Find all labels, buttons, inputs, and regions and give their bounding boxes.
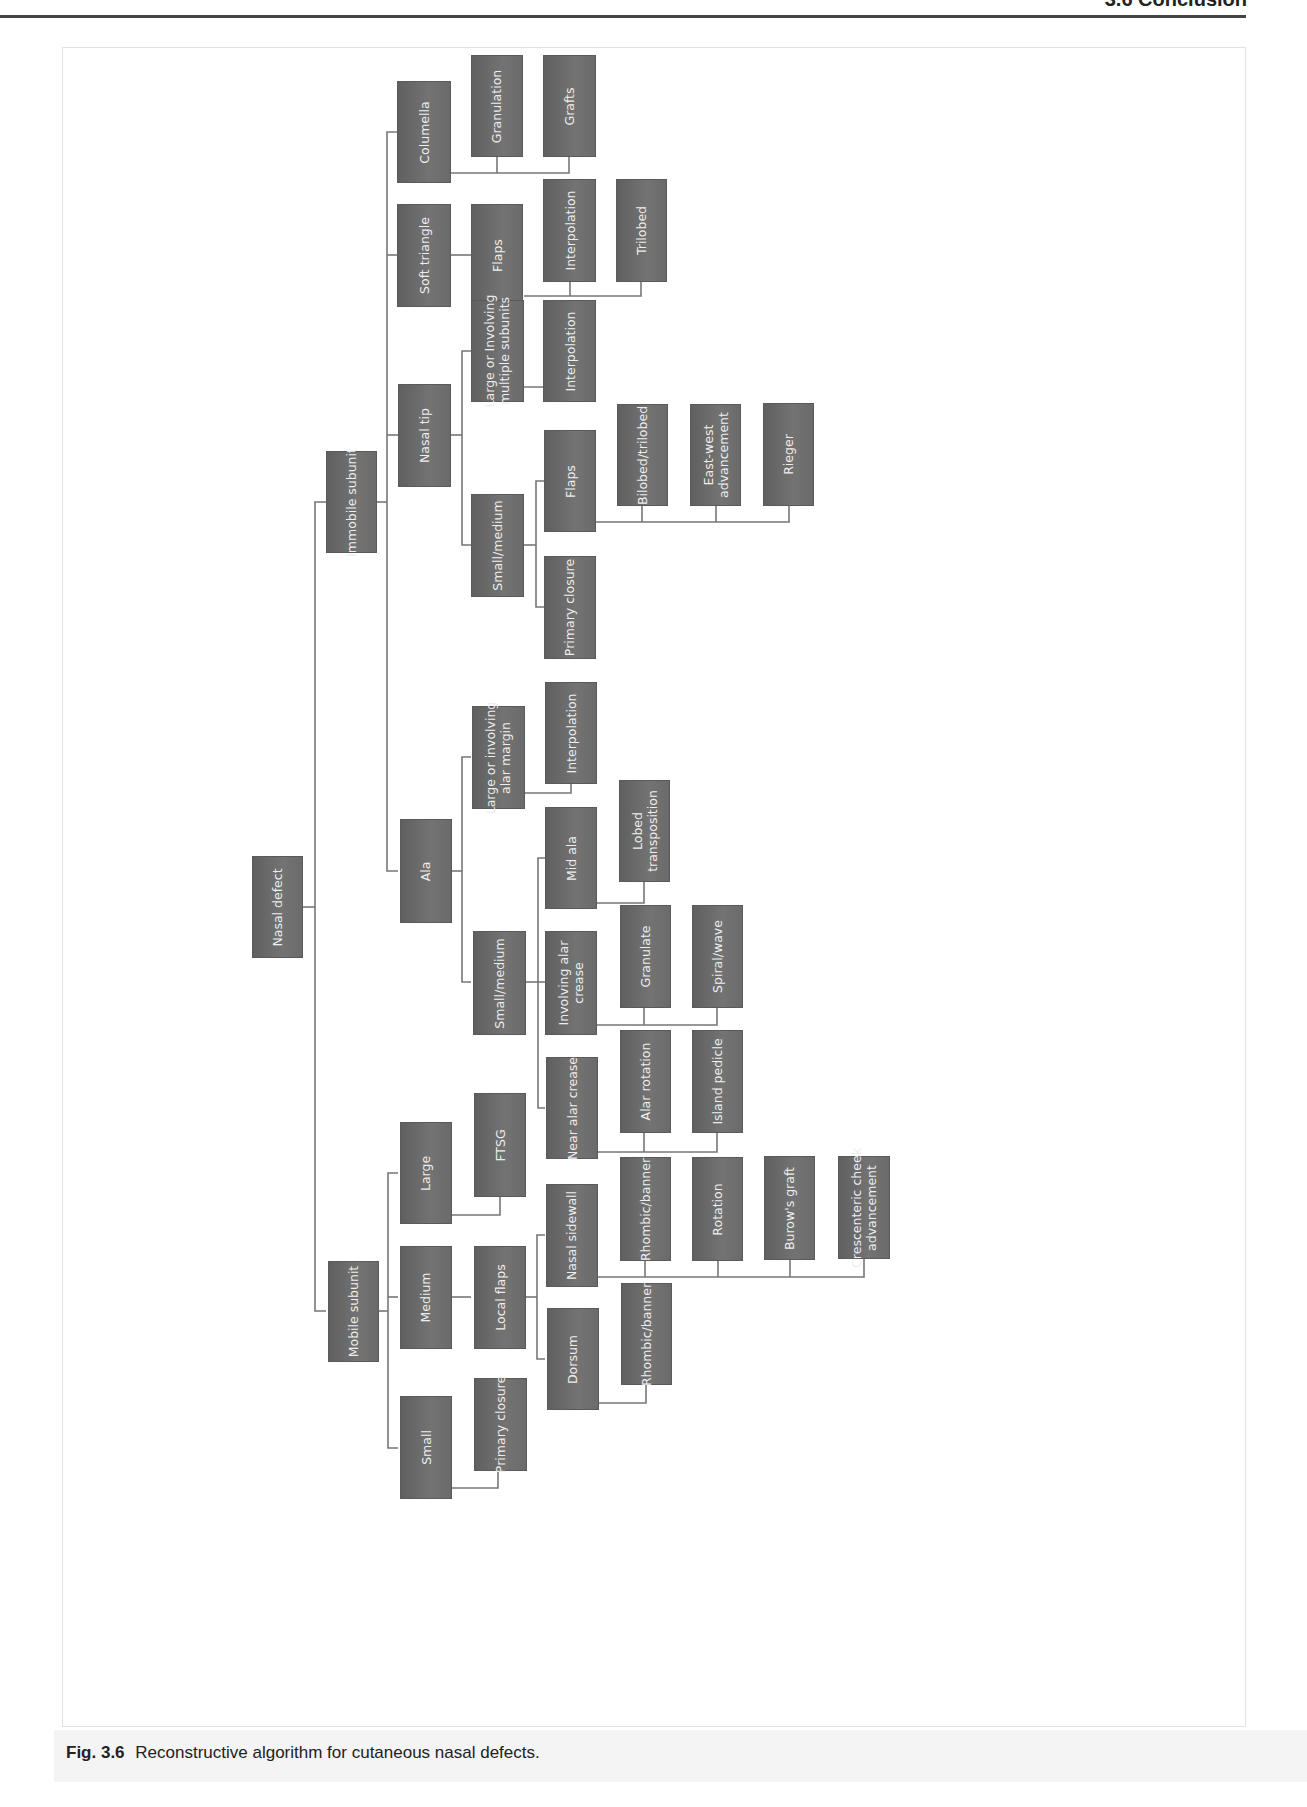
node-burows-graft: Burow's graft	[764, 1156, 815, 1260]
node-label: Grafts	[562, 87, 577, 125]
node-label: Bilobed/trilobed	[635, 405, 650, 504]
node-label: Rhombic/banner	[638, 1157, 653, 1260]
node-label: Flaps	[563, 465, 578, 498]
node-label: Lobed transposition	[630, 790, 660, 872]
node-label: Flaps	[490, 239, 505, 272]
node-ftsg: FTSG	[474, 1093, 526, 1197]
node-sidewall-rhombic-banner: Rhombic/banner	[620, 1157, 671, 1261]
node-label: Nasal defect	[270, 868, 285, 946]
node-soft-triangle-flaps: Flaps	[471, 204, 523, 307]
node-label: Mobile subunit	[346, 1266, 361, 1358]
node-involving-alar-crease: Involving alar crease	[545, 931, 597, 1035]
node-label: Burow's graft	[782, 1167, 797, 1250]
node-label: Large	[418, 1155, 433, 1190]
figure-number: Fig. 3.6	[66, 1743, 125, 1762]
node-ala-large-alar-margin: Large or involving alar margin	[472, 706, 525, 809]
node-label: Dorsum	[566, 1334, 581, 1383]
node-east-west-advancement: East-west advancement	[690, 404, 741, 506]
node-granulation: Granulation	[471, 55, 523, 157]
node-label: Ala	[419, 861, 434, 881]
node-label: Interpolation	[564, 693, 579, 773]
node-grafts: Grafts	[543, 55, 596, 157]
node-tip-large-multiple-subunits: Large or Involving multiple subunits	[471, 300, 524, 402]
node-label: Alar rotation	[638, 1043, 653, 1121]
figure-caption: Fig. 3.6 Reconstructive algorithm for cu…	[66, 1743, 540, 1763]
node-local-flaps: Local flaps	[474, 1246, 526, 1349]
node-large: Large	[400, 1122, 452, 1224]
figure-caption-text: Reconstructive algorithm for cutaneous n…	[135, 1743, 539, 1762]
node-tip-large-interpolation: Interpolation	[543, 300, 596, 402]
node-sidewall-rotation: Rotation	[692, 1157, 743, 1261]
node-rieger: Rieger	[763, 403, 814, 506]
node-ala: Ala	[400, 819, 452, 923]
node-label: Medium	[418, 1273, 433, 1323]
node-trilobed: Trilobed	[616, 179, 667, 282]
node-mid-ala: Mid ala	[545, 807, 597, 909]
node-tip-small-medium: Small/medium	[471, 494, 524, 597]
node-tip-primary-closure: Primary closure	[544, 556, 596, 659]
node-medium: Medium	[400, 1246, 452, 1349]
node-label: Spiral/wave	[710, 920, 725, 993]
node-label: Mid ala	[564, 836, 579, 881]
node-tip-flaps: Flaps	[544, 430, 596, 532]
figure-frame	[62, 47, 1246, 1727]
node-immobile-subunit: Immobile subunit	[326, 451, 377, 553]
node-nasal-sidewall: Nasal sidewall	[546, 1184, 598, 1287]
node-label: Interpolation	[562, 311, 577, 391]
node-label: Large or involving alar margin	[484, 701, 514, 814]
running-head: 3.6 Conclusion	[1105, 0, 1247, 11]
node-label: Soft triangle	[417, 217, 432, 294]
node-near-alar-crease: Near alar crease	[546, 1057, 598, 1159]
node-label: Nasal tip	[417, 408, 432, 463]
node-label: Immobile subunit	[344, 448, 359, 557]
node-label: Small	[419, 1430, 434, 1465]
node-nasal-defect: Nasal defect	[252, 856, 303, 958]
node-label: Large or Involving multiple subunits	[483, 295, 513, 408]
node-label: Primary closure	[493, 1376, 508, 1473]
node-label: Primary closure	[563, 559, 578, 656]
node-nasal-tip: Nasal tip	[398, 384, 451, 487]
node-label: Local flaps	[493, 1264, 508, 1330]
node-label: Interpolation	[562, 191, 577, 271]
node-spiral-wave: Spiral/wave	[692, 905, 743, 1008]
node-dorsum: Dorsum	[547, 1308, 599, 1410]
node-label: FTSG	[492, 1129, 507, 1161]
node-label: Crescenteric cheek advancement	[849, 1148, 879, 1268]
node-label: Columella	[417, 101, 432, 163]
node-granulate: Granulate	[620, 905, 671, 1008]
node-label: Small/medium	[492, 938, 507, 1028]
node-island-pedicle: Island pedicle	[692, 1030, 743, 1133]
node-dorsum-rhombic-banner: Rhombic/banner	[621, 1283, 672, 1385]
header-rule	[0, 15, 1246, 18]
node-label: East-west advancement	[701, 412, 731, 498]
node-label: Rotation	[710, 1183, 725, 1235]
node-label: Involving alar crease	[556, 941, 586, 1026]
node-label: Island pedicle	[710, 1038, 725, 1124]
node-mobile-subunit: Mobile subunit	[328, 1261, 379, 1362]
node-ala-small-medium: Small/medium	[473, 931, 526, 1035]
node-label: Near alar crease	[565, 1056, 580, 1159]
node-soft-triangle: Soft triangle	[397, 204, 451, 307]
node-crescenteric-cheek-advancement: Crescenteric cheek advancement	[838, 1156, 890, 1259]
node-small-primary-closure: Primary closure	[474, 1378, 527, 1471]
node-label: Granulate	[638, 925, 653, 987]
node-label: Small/medium	[490, 500, 505, 590]
node-label: Rieger	[781, 434, 796, 475]
node-columella: Columella	[397, 81, 451, 183]
node-soft-triangle-interpolation: Interpolation	[543, 179, 596, 282]
node-bilobed-trilobed: Bilobed/trilobed	[617, 404, 668, 506]
node-alar-rotation: Alar rotation	[620, 1030, 671, 1133]
node-ala-large-interpolation: Interpolation	[545, 682, 597, 784]
node-label: Granulation	[490, 69, 505, 142]
node-lobed-transposition: Lobed transposition	[619, 780, 670, 882]
node-label: Rhombic/banner	[639, 1282, 654, 1385]
node-label: Nasal sidewall	[565, 1191, 580, 1280]
node-label: Trilobed	[634, 206, 649, 255]
node-small: Small	[400, 1396, 452, 1499]
